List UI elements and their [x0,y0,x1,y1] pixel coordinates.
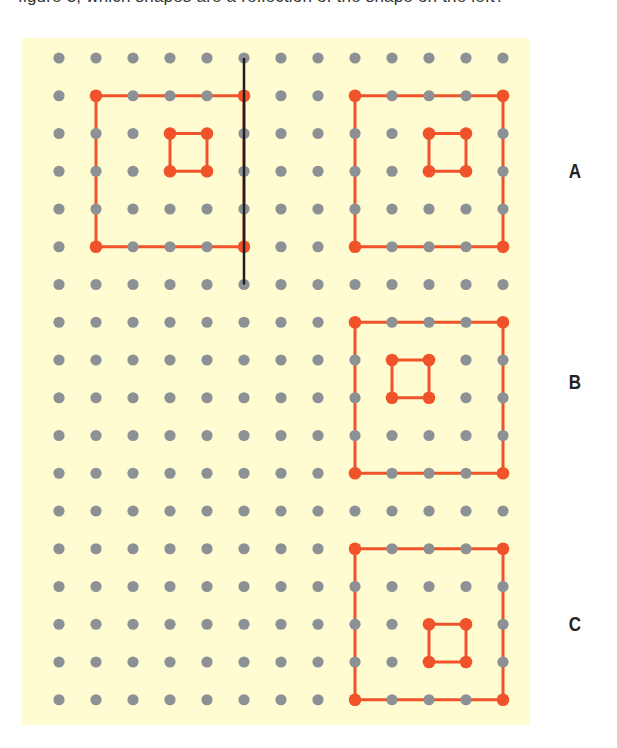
band-corner-peg [497,316,510,329]
peg [386,430,397,441]
peg [460,430,471,441]
peg [90,656,101,667]
band-corner-peg [423,165,436,178]
geoboard-diagram [0,0,617,748]
peg [349,581,360,592]
peg [164,505,175,516]
peg [164,90,175,101]
peg [90,543,101,554]
peg [164,354,175,365]
peg [275,128,286,139]
peg [164,656,175,667]
peg [275,279,286,290]
peg [349,128,360,139]
peg [275,694,286,705]
peg [53,694,64,705]
peg [127,90,138,101]
peg [386,279,397,290]
peg [386,619,397,630]
peg [201,468,212,479]
peg [127,166,138,177]
peg [53,52,64,63]
peg [497,279,508,290]
peg [497,354,508,365]
peg [164,694,175,705]
peg [386,505,397,516]
peg [275,354,286,365]
peg [386,241,397,252]
band-corner-peg [201,127,214,140]
peg [127,392,138,403]
band-corner-peg [164,165,177,178]
peg [127,279,138,290]
peg [53,581,64,592]
peg [201,279,212,290]
peg [90,505,101,516]
band-corner-peg [497,693,510,706]
band-corner-peg [460,127,473,140]
peg [127,354,138,365]
peg [164,392,175,403]
peg [386,203,397,214]
peg [312,90,323,101]
peg [275,241,286,252]
peg [275,203,286,214]
peg [127,128,138,139]
peg [497,203,508,214]
peg [201,90,212,101]
peg [127,581,138,592]
peg [238,619,249,630]
peg [349,392,360,403]
peg [386,128,397,139]
rubber-bands [96,96,503,700]
peg [53,90,64,101]
peg [53,505,64,516]
band-inner-square-A [429,134,466,172]
peg [312,505,323,516]
peg [349,166,360,177]
peg [53,354,64,365]
band-corner-peg [497,467,510,480]
peg [90,619,101,630]
peg [238,317,249,328]
peg [423,430,434,441]
peg [90,468,101,479]
peg [460,468,471,479]
peg [238,430,249,441]
peg [164,543,175,554]
peg [90,392,101,403]
peg [460,241,471,252]
peg [127,241,138,252]
peg [201,354,212,365]
peg [53,128,64,139]
peg [497,581,508,592]
peg [127,543,138,554]
band-corner-peg [164,127,177,140]
band-corner-peg [349,693,362,706]
peg [201,694,212,705]
peg [53,279,64,290]
peg [90,317,101,328]
peg [497,619,508,630]
band-corner-peg [349,240,362,253]
peg [90,203,101,214]
peg [312,619,323,630]
peg [423,505,434,516]
peg [349,52,360,63]
peg [497,430,508,441]
peg [386,468,397,479]
peg [201,430,212,441]
peg [53,166,64,177]
peg [275,543,286,554]
peg [164,430,175,441]
peg [164,468,175,479]
band-corner-peg [201,165,214,178]
band-corner-peg [90,240,103,253]
peg [423,241,434,252]
peg [386,694,397,705]
peg [127,430,138,441]
band-inner-square-B [392,360,429,398]
peg [127,468,138,479]
peg [349,354,360,365]
peg [164,317,175,328]
